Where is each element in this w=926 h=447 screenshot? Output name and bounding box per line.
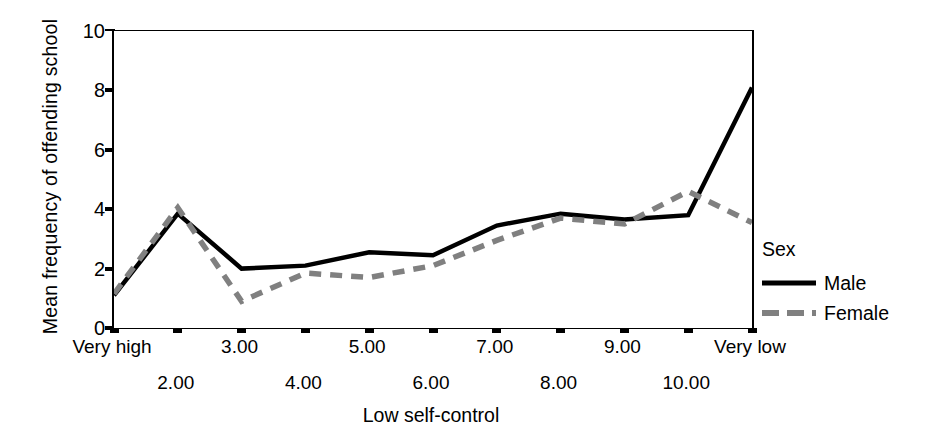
y-axis-tick [105, 88, 114, 92]
x-axis-tick-label: 5.00 [349, 336, 386, 358]
y-axis-tick-label: 10 [83, 20, 105, 43]
y-axis-tick [105, 267, 114, 271]
x-axis-tick-label: 9.00 [604, 336, 641, 358]
series-line-female [114, 191, 752, 301]
legend-entries: MaleFemale [762, 268, 922, 328]
plot-area: 0246810 [112, 30, 754, 329]
x-axis-tick [620, 328, 629, 333]
y-axis-tick [105, 29, 115, 31]
x-axis-tick [237, 328, 246, 333]
x-axis-tick [492, 328, 501, 333]
y-axis-tick [105, 148, 114, 152]
legend-label: Male [824, 272, 866, 295]
legend: Sex MaleFemale [762, 238, 922, 328]
x-axis-tick [429, 328, 438, 333]
y-axis-tick-label: 2 [94, 257, 105, 280]
legend-title: Sex [762, 238, 922, 261]
x-axis-tick [556, 328, 565, 333]
x-axis-tick-label: 6.00 [413, 372, 450, 394]
legend-swatch-male [762, 276, 816, 290]
y-axis-title: Mean frequency of offending school [39, 7, 62, 347]
x-axis-tick-label: Very high [72, 336, 151, 358]
x-axis-title: Low self-control [112, 404, 750, 427]
x-axis-tick-label: 2.00 [157, 372, 194, 394]
x-axis-tick [173, 328, 182, 333]
x-axis-tick-label: 4.00 [285, 372, 322, 394]
x-axis-tick [301, 328, 310, 333]
x-axis-tick-label: 3.00 [221, 336, 258, 358]
x-axis-tick-label: 8.00 [540, 372, 577, 394]
series-lines [114, 31, 752, 328]
y-axis-tick-label: 6 [94, 138, 105, 161]
legend-entry: Male [762, 268, 922, 298]
x-axis-tick-label: 10.00 [662, 372, 710, 394]
x-axis-tick [748, 328, 757, 333]
x-axis-tick-label: 7.00 [476, 336, 513, 358]
y-axis-tick [105, 207, 114, 211]
y-axis-tick-label: 8 [94, 79, 105, 102]
legend-swatch-female [762, 306, 816, 320]
x-axis-tick [110, 328, 119, 333]
y-axis-tick-label: 4 [94, 198, 105, 221]
x-axis-tick [365, 328, 374, 333]
x-axis-tick [684, 328, 693, 333]
series-line-male [114, 87, 752, 295]
x-axis-tick-label: Very low [714, 336, 786, 358]
line-chart-figure: Mean frequency of offending school 02468… [0, 0, 926, 447]
legend-label: Female [824, 302, 889, 325]
legend-entry: Female [762, 298, 922, 328]
